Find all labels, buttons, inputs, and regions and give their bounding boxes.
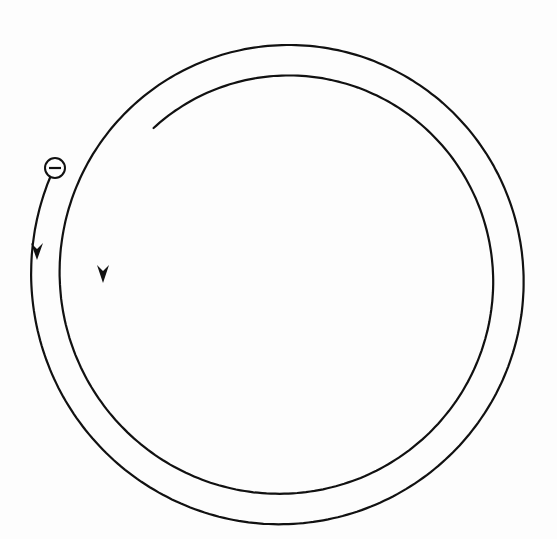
diagram-canvas: − Charged particle spiraling inward in a… [0, 0, 557, 539]
spiral-diagram [0, 0, 557, 539]
inner-arrowhead-icon [97, 265, 109, 283]
negative-charge-particle [45, 158, 65, 178]
spiral-trajectory [31, 45, 523, 524]
